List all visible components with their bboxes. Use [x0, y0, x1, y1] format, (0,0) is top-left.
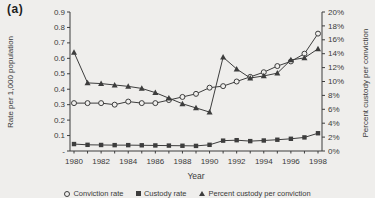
marker-triangle	[220, 54, 226, 60]
x-axis-title: Year	[187, 171, 204, 181]
figure-panel: (a) 0.90.80.70.60.50.40.30.20.1-20%18%16…	[0, 0, 375, 198]
left-tick-label: 0.2	[54, 116, 66, 125]
marker-square	[207, 143, 211, 147]
marker-square	[99, 143, 103, 147]
x-tick-label: 1988	[174, 157, 192, 166]
right-tick-label: 12%	[328, 63, 344, 72]
right-tick-label: 18%	[328, 22, 344, 31]
marker-square	[302, 135, 306, 139]
right-tick-label: 2%	[328, 133, 340, 142]
x-tick-label: 1984	[119, 157, 137, 166]
x-tick-label: 1992	[228, 157, 246, 166]
marker-square	[194, 144, 198, 148]
x-tick-label: 1998	[309, 157, 327, 166]
legend-item: Custody rate	[136, 189, 186, 198]
marker-square	[180, 144, 184, 148]
right-tick-label: 14%	[328, 49, 344, 58]
legend-circle-open-icon	[64, 191, 70, 197]
right-tick-label: 4%	[328, 119, 340, 128]
marker-circle	[316, 31, 321, 36]
marker-circle	[85, 101, 90, 106]
x-tick-label: 1990	[201, 157, 219, 166]
x-tick-label: 1994	[255, 157, 273, 166]
left-axis-title: Rate per 1,000 population	[6, 36, 15, 128]
left-tick-label: 0.1	[54, 131, 66, 140]
right-tick-label: 8%	[328, 91, 340, 100]
series-line-triangle-filled	[74, 49, 318, 112]
marker-square	[248, 139, 252, 143]
legend-item: Conviction rate	[64, 189, 123, 198]
legend-triangle-filled-icon	[199, 191, 205, 196]
chart-legend: Conviction rateCustody ratePercent custo…	[0, 189, 375, 198]
right-tick-label: 0%	[328, 147, 340, 156]
marker-triangle	[71, 49, 77, 55]
marker-circle	[207, 85, 212, 90]
left-tick-label: 0.7	[54, 38, 66, 47]
right-tick-label: 6%	[328, 105, 340, 114]
marker-circle	[180, 94, 185, 99]
marker-circle	[194, 91, 199, 96]
x-tick-label: 1986	[146, 157, 164, 166]
marker-triangle	[315, 46, 321, 52]
x-tick-label: 1982	[92, 157, 110, 166]
marker-circle	[234, 79, 239, 84]
legend-label: Custody rate	[144, 189, 187, 198]
left-tick-label: 0.4	[54, 85, 66, 94]
marker-square	[140, 143, 144, 147]
x-tick-label: 1980	[65, 157, 83, 166]
left-tick-label: 0.6	[54, 54, 66, 63]
legend-label: Percent custody per conviction	[208, 189, 310, 198]
marker-circle	[275, 64, 280, 69]
marker-circle	[221, 84, 226, 89]
marker-circle	[153, 101, 158, 106]
legend-item: Percent custody per conviction	[199, 189, 310, 198]
legend-label: Conviction rate	[73, 189, 123, 198]
marker-square	[275, 138, 279, 142]
marker-circle	[112, 102, 117, 107]
marker-square	[234, 138, 238, 142]
left-tick-label: 0.8	[54, 23, 66, 32]
marker-square	[167, 143, 171, 147]
marker-circle	[126, 99, 131, 104]
line-chart: 0.90.80.70.60.50.40.30.20.1-20%18%16%14%…	[0, 0, 375, 198]
marker-square	[221, 138, 225, 142]
right-tick-label: 16%	[328, 35, 344, 44]
left-tick-label: 0.3	[54, 100, 66, 109]
left-tick-label: -	[62, 147, 65, 156]
left-tick-label: 0.9	[54, 8, 66, 17]
marker-square	[316, 131, 320, 135]
marker-circle	[139, 101, 144, 106]
right-tick-label: 10%	[328, 77, 344, 86]
right-tick-label: 20%	[328, 8, 344, 17]
marker-square	[126, 143, 130, 147]
marker-circle	[72, 101, 77, 106]
marker-square	[112, 143, 116, 147]
marker-square	[289, 137, 293, 141]
marker-square	[262, 138, 266, 142]
marker-square	[85, 143, 89, 147]
marker-square	[72, 142, 76, 146]
legend-square-filled-icon	[136, 191, 141, 196]
marker-square	[153, 143, 157, 147]
right-axis-title: Percent custody per conviction	[361, 29, 370, 138]
marker-circle	[99, 101, 104, 106]
left-tick-label: 0.5	[54, 69, 66, 78]
x-tick-label: 1996	[282, 157, 300, 166]
